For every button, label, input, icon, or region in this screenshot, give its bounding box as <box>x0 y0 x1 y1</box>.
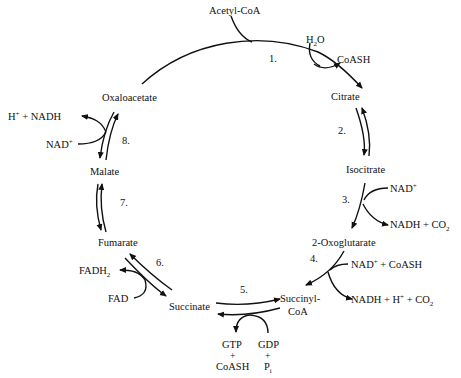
nad-label-8: NAD+ <box>46 138 73 150</box>
step-6-label: 6. <box>156 257 164 268</box>
step1-arc <box>142 41 362 88</box>
nadh-exit-arrow-4 <box>328 272 352 299</box>
acetyl-coa-entry-arrow <box>231 16 252 42</box>
step-3-label: 3. <box>342 194 350 205</box>
step5-forward-arrow <box>216 299 280 304</box>
fumarate-label: Fumarate <box>98 237 138 248</box>
step5-reverse-arrow <box>218 308 280 315</box>
pi-label: Pi <box>264 361 272 375</box>
succinyl-coa-label-line2: CoA <box>288 306 308 317</box>
acetyl-coa-label: Acetyl-CoA <box>209 5 261 16</box>
nad-entry-arrow-3 <box>364 188 388 200</box>
nadh-exit-arrow-8 <box>82 116 106 132</box>
step7-forward-arrow <box>101 184 106 232</box>
step-2-label: 2. <box>338 125 346 136</box>
step-5-label: 5. <box>240 284 248 295</box>
coash-label-5: CoASH <box>216 361 250 372</box>
fad-entry-arrow <box>134 280 146 298</box>
nad-label-3: NAD+ <box>390 182 417 194</box>
citrate-label: Citrate <box>331 91 360 102</box>
coash-label: CoASH <box>337 54 371 65</box>
step7-reverse-arrow <box>97 184 101 230</box>
succinyl-coa-label-line1: Succinyl- <box>280 293 321 304</box>
step-4-label: 4. <box>310 253 318 264</box>
nad-coash-label-4: NAD+ + CoASH <box>351 258 423 270</box>
step8-forward-arrow <box>106 114 118 160</box>
isocitrate-label: Isocitrate <box>346 164 385 175</box>
fadh2-exit-arrow <box>120 270 145 280</box>
gdp-label: GDP <box>258 339 279 350</box>
water-label: H2O <box>306 34 325 48</box>
nadh-h-co2-label-4: NADH + H+ + CO2 <box>351 293 434 308</box>
step-7-label: 7. <box>120 197 128 208</box>
succinate-label: Succinate <box>169 301 210 312</box>
gtp-plus-label: + <box>230 351 235 361</box>
nadh-exit-arrow-3 <box>363 204 388 225</box>
gtp-exit-arrow <box>236 315 250 332</box>
nadh-co2-label-3: NADH + CO2 <box>390 219 450 233</box>
gdp-plus-label: + <box>265 351 270 361</box>
malate-label: Malate <box>90 166 119 177</box>
nad-entry-arrow-8 <box>78 132 106 144</box>
oxoglutarate-label: 2-Oxoglutarate <box>312 237 376 248</box>
h-nadh-label-8: H+ + NADH <box>8 110 61 122</box>
nad-coash-entry-arrow-4 <box>330 264 348 270</box>
gdp-entry-arrow <box>250 315 268 333</box>
step-1-label: 1. <box>269 53 277 64</box>
oxaloacetate-label: Oxaloacetate <box>102 92 157 103</box>
fad-label: FAD <box>108 293 129 304</box>
gtp-label: GTP <box>222 339 242 350</box>
fadh2-label: FADH2 <box>79 265 111 279</box>
step2-forward-arrow <box>356 108 365 155</box>
citric-acid-cycle-diagram: Acetyl-CoA 1. H2O CoASH Citrate 2. Isoci… <box>0 0 461 378</box>
step-8-label: 8. <box>122 135 130 146</box>
